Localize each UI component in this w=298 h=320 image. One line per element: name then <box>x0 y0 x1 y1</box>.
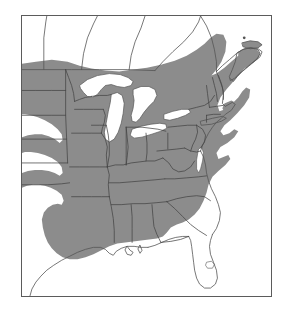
distribution-map-figure: Distribution range map of eastern North … <box>0 0 298 320</box>
legend-shaded-label: Shaded gray area indicates the species r… <box>0 0 1 1</box>
small-island-dot <box>243 36 246 39</box>
map-frame-border <box>21 15 272 297</box>
map-legend: Shaded gray area indicates the species r… <box>0 0 1 1</box>
map-title: Distribution range map of eastern North … <box>0 21 1 22</box>
map-canvas <box>22 16 271 296</box>
